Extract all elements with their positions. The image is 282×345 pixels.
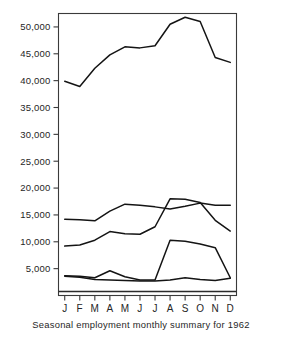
x-tick-label: A <box>167 303 174 314</box>
x-tick-label: O <box>196 303 204 314</box>
x-tick-label: D <box>227 303 234 314</box>
x-tick-label: J <box>137 303 142 314</box>
x-tick-label: S <box>182 303 189 314</box>
x-tick-label: J <box>62 303 67 314</box>
y-axis-labels: 5,00010,00015,00020,00025,00030,00035,00… <box>20 21 50 274</box>
y-tick-label: 25,000 <box>20 156 50 167</box>
x-tick-label: A <box>106 303 113 314</box>
series-line-series-upper-middle <box>65 203 231 221</box>
plot-frame <box>59 14 237 296</box>
series-line-series-seasonal-spike <box>65 240 231 280</box>
chart-caption: Seasonal employment monthly summary for … <box>32 319 249 330</box>
x-axis-labels: JFMAMJJASOND <box>62 303 234 314</box>
y-axis-ticks <box>54 27 59 269</box>
y-tick-label: 10,000 <box>20 236 50 247</box>
x-axis-ticks <box>65 296 231 301</box>
data-series-group <box>65 17 231 281</box>
y-tick-label: 50,000 <box>20 21 50 32</box>
y-tick-label: 40,000 <box>20 75 50 86</box>
y-tick-label: 45,000 <box>20 48 50 59</box>
y-tick-label: 5,000 <box>26 263 51 274</box>
x-tick-label: F <box>77 303 83 314</box>
x-tick-label: M <box>91 303 100 314</box>
y-tick-label: 15,000 <box>20 209 50 220</box>
y-tick-label: 35,000 <box>20 102 50 113</box>
x-tick-label: N <box>212 303 219 314</box>
chart-figure: 5,00010,00015,00020,00025,00030,00035,00… <box>0 0 282 345</box>
y-tick-label: 30,000 <box>20 129 50 140</box>
line-chart: 5,00010,00015,00020,00025,00030,00035,00… <box>0 0 282 345</box>
y-tick-label: 20,000 <box>20 182 50 193</box>
x-tick-label: M <box>121 303 130 314</box>
x-tick-label: J <box>152 303 157 314</box>
series-line-total-employment <box>65 17 231 86</box>
